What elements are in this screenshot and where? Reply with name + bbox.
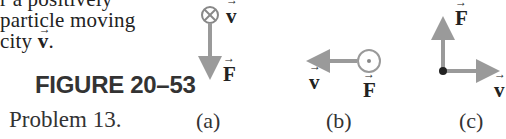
panel-c-F-label: F [455,6,468,31]
into-page-icon [202,7,218,23]
panel-a-v-label: v [226,4,237,29]
panel-a-label: (a) [196,108,220,134]
panel-a-diagram [202,7,218,76]
panel-b-v-label: v [309,70,320,95]
particle-dot [439,67,447,75]
panel-b-F-label: F [363,78,376,103]
panel-c-label: (c) [459,108,483,134]
panel-b-label: (b) [326,108,352,134]
panel-a-F-label: F [223,62,236,87]
panel-c-v-label: v [494,78,505,103]
